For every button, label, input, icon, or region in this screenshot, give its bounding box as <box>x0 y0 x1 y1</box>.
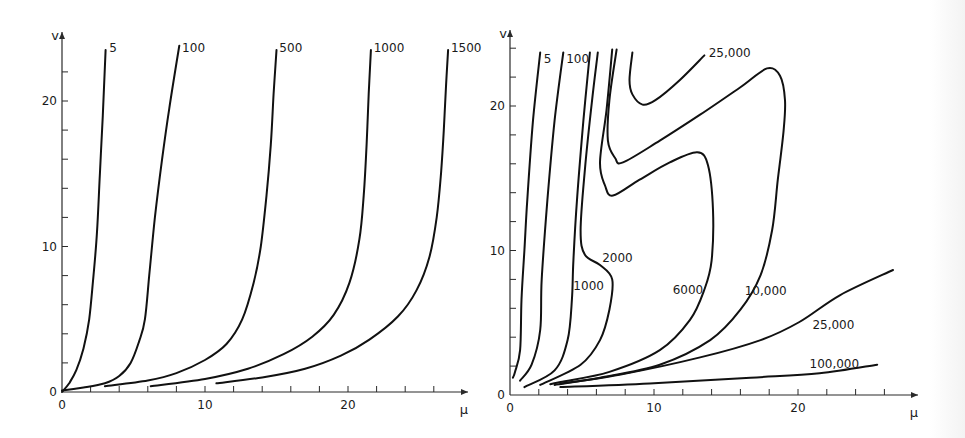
x-axis-label: μ <box>910 405 918 420</box>
contour-label: 5 <box>544 52 552 66</box>
contour-label: 1500 <box>451 41 482 55</box>
contour-line-1500 <box>216 50 448 383</box>
x-tick-label: 20 <box>340 398 355 412</box>
contour-label: 500 <box>279 41 302 55</box>
contour-line-10000 <box>560 50 785 384</box>
x-axis-label: μ <box>460 402 468 417</box>
y-tick-label: 0 <box>497 388 505 402</box>
contour-line-5 <box>62 50 106 392</box>
x-tick-label: 10 <box>646 401 661 415</box>
y-tick-label: 0 <box>49 385 57 399</box>
y-tick-label: 20 <box>42 94 57 108</box>
x-axis-arrow-icon <box>461 389 468 395</box>
y-axis-arrow-icon <box>59 32 65 39</box>
y-axis-arrow-icon <box>507 30 513 37</box>
contour-line-25000 <box>630 53 705 105</box>
contour-line-6000 <box>550 50 713 385</box>
figure: 0102001020μv510050010001500 0102001020μv… <box>0 0 965 438</box>
y-axis-label: v <box>51 28 59 43</box>
contour-line-5 <box>513 53 540 378</box>
y-tick-label: 10 <box>42 240 57 254</box>
contour-figure: 0102001020μv510050010001500 0102001020μv… <box>0 0 965 438</box>
contour-line-1000 <box>151 50 371 386</box>
contour-label: 100 <box>566 52 589 66</box>
contour-label: 2000 <box>602 251 633 265</box>
y-axis-label: v <box>499 26 507 41</box>
right-panel: 0102001020μv510010002000600010,00025,000… <box>490 26 918 420</box>
y-tick-label: 20 <box>490 99 505 113</box>
x-tick-label: 0 <box>506 401 514 415</box>
y-tick-label: 10 <box>490 244 505 258</box>
contour-label: 1000 <box>374 41 405 55</box>
x-tick-label: 0 <box>58 398 66 412</box>
contour-label: 1000 <box>573 279 604 293</box>
contour-line-500 <box>105 50 277 386</box>
contour-label: 10,000 <box>745 284 787 298</box>
contour-label: 25,000 <box>709 46 751 60</box>
contour-label: 5 <box>109 41 117 55</box>
contour-label: 100 <box>182 41 205 55</box>
x-tick-label: 20 <box>790 401 805 415</box>
contour-label: 6000 <box>673 283 704 297</box>
contour-line-100 <box>62 46 179 391</box>
contour-label: 100,000 <box>810 357 860 371</box>
contour-label: 25,000 <box>812 318 854 332</box>
x-tick-label: 10 <box>197 398 212 412</box>
x-axis-arrow-icon <box>911 392 918 398</box>
left-panel: 0102001020μv510050010001500 <box>42 28 482 417</box>
page-edge-shadow <box>930 0 965 438</box>
